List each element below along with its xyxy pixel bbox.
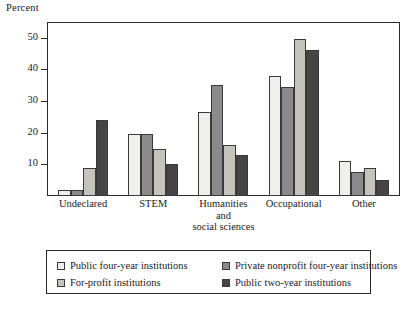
y-axis-tick-mark	[41, 133, 47, 134]
bar	[294, 39, 307, 196]
legend-item[interactable]: For-profit institutions	[57, 277, 161, 288]
bar-group	[118, 22, 188, 196]
bar-group	[48, 22, 118, 196]
bar	[364, 168, 377, 196]
x-axis-label-line: Undeclared	[59, 198, 107, 209]
legend-swatch-icon	[222, 279, 230, 287]
legend-item-label: For-profit institutions	[70, 277, 161, 288]
bar	[281, 87, 294, 196]
x-axis-label-line: and	[176, 210, 270, 222]
y-axis-tick-label: 40	[28, 62, 39, 73]
legend-swatch-icon	[57, 279, 65, 287]
bar-group	[188, 22, 258, 196]
legend-item[interactable]: Public four-year institutions	[57, 260, 188, 271]
x-axis-label-4: Other	[317, 198, 411, 210]
legend-swatch-icon	[222, 262, 230, 270]
bars-layer	[48, 22, 399, 196]
x-axis-label-line: social sciences	[176, 221, 270, 233]
bar	[58, 190, 71, 196]
bar	[236, 155, 249, 196]
y-axis-tick-label: 50	[28, 31, 39, 42]
bar	[83, 168, 96, 196]
bar	[198, 112, 211, 196]
legend-item-label: Public four-year institutions	[70, 260, 188, 271]
legend-item[interactable]: Private nonprofit four-year institutions	[222, 260, 397, 271]
bar	[166, 164, 179, 196]
bar-group	[259, 22, 329, 196]
bar	[128, 134, 141, 196]
legend-item-label: Private nonprofit four-year institutions	[235, 260, 397, 271]
y-axis-tick-label: 20	[28, 126, 39, 137]
x-axis-label-line: Occupational	[266, 198, 322, 209]
y-axis-title: Percent	[6, 2, 39, 13]
y-axis-tick-mark	[41, 164, 47, 165]
x-axis-label-line: Humanities	[199, 198, 247, 209]
bar-group	[329, 22, 399, 196]
legend-item[interactable]: Public two-year institutions	[222, 277, 351, 288]
y-axis-tick-label: 30	[28, 94, 39, 105]
bar	[376, 180, 389, 196]
bar-chart: Percent 1020304050 UndeclaredSTEMHumanit…	[0, 0, 411, 312]
y-axis-tick-mark	[41, 101, 47, 102]
legend-swatch-icon	[57, 262, 65, 270]
legend-item-label: Public two-year institutions	[235, 277, 351, 288]
bar	[339, 161, 352, 196]
y-axis-tick-label: 10	[28, 157, 39, 168]
bar	[269, 76, 282, 196]
bar	[351, 172, 364, 196]
x-axis-label-line: Other	[352, 198, 376, 209]
bar	[211, 85, 224, 196]
x-axis-label-line: STEM	[139, 198, 167, 209]
bar	[306, 50, 319, 196]
legend: Public four-year institutionsPrivate non…	[46, 250, 371, 294]
bar	[96, 120, 109, 196]
bar	[141, 134, 154, 196]
bar	[153, 149, 166, 196]
bar	[223, 145, 236, 196]
y-axis-tick-mark	[41, 38, 47, 39]
bar	[71, 190, 84, 196]
y-axis-tick-mark	[41, 69, 47, 70]
